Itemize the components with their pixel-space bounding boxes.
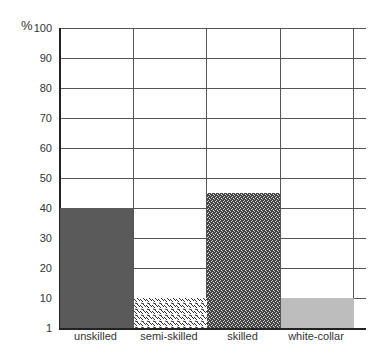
bar-skilled: [207, 193, 280, 328]
y-tick-label: 10: [22, 292, 52, 304]
y-tick-label: 90: [22, 52, 52, 64]
gridline: [59, 88, 366, 89]
x-tick-label: semi-skilled: [133, 330, 206, 342]
y-tick-label: 50: [22, 172, 52, 184]
y-tick-label: 1: [22, 322, 52, 334]
gridline: [59, 148, 366, 149]
y-tick-label: 20: [22, 262, 52, 274]
gridline: [59, 178, 366, 179]
bar-semi-skilled: [134, 298, 207, 328]
y-tick-label: 40: [22, 202, 52, 214]
x-tick-label: skilled: [206, 330, 279, 342]
bar-unskilled: [60, 208, 133, 328]
x-tick-label: white-collar: [280, 330, 353, 342]
bar-white-collar: [281, 298, 354, 328]
y-tick-label: 70: [22, 112, 52, 124]
y-tick-label: 30: [22, 232, 52, 244]
y-tick-label: 80: [22, 82, 52, 94]
gridline: [59, 58, 366, 59]
x-axis: [59, 328, 366, 330]
y-tick-label: 60: [22, 142, 52, 154]
y-tick-label: 100: [22, 22, 52, 34]
gridline: [59, 118, 366, 119]
gridline: [59, 28, 366, 29]
x-tick-label: unskilled: [59, 330, 132, 342]
plot-area: 1102030405060708090100unskilledsemi-skil…: [59, 28, 366, 328]
column-divider: [353, 28, 354, 328]
